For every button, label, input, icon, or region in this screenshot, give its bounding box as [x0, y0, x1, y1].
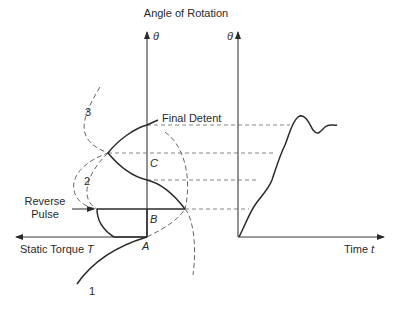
curve-1-label: 1 — [89, 285, 95, 297]
torque-curve-1-dashed-tail — [185, 209, 195, 275]
diagram-title: Angle of Rotation — [144, 7, 228, 19]
point-c-label: C — [150, 157, 158, 169]
left-theta-label: θ — [153, 30, 159, 42]
point-a-label: A — [141, 240, 149, 252]
stepper-motor-detent-diagram: Angle of Rotation θ θ Static Torque T Ti… — [0, 0, 404, 309]
curve-2-label: 2 — [84, 175, 90, 187]
time-label: Time t — [344, 243, 375, 255]
right-theta-label: θ — [227, 30, 233, 42]
point-b-label: B — [150, 213, 157, 225]
curve-3-label: 3 — [85, 106, 91, 118]
static-torque-label: Static Torque T — [20, 243, 95, 255]
torque-curve-1-dashed-head — [165, 132, 188, 209]
final-detent-label: Final Detent — [162, 112, 221, 124]
reverse-pulse-label-2: Pulse — [31, 208, 59, 220]
reverse-pulse-label-1: Reverse — [25, 195, 66, 207]
torque-curve-2-solid-lower — [97, 209, 114, 237]
time-response-curve — [239, 116, 337, 237]
